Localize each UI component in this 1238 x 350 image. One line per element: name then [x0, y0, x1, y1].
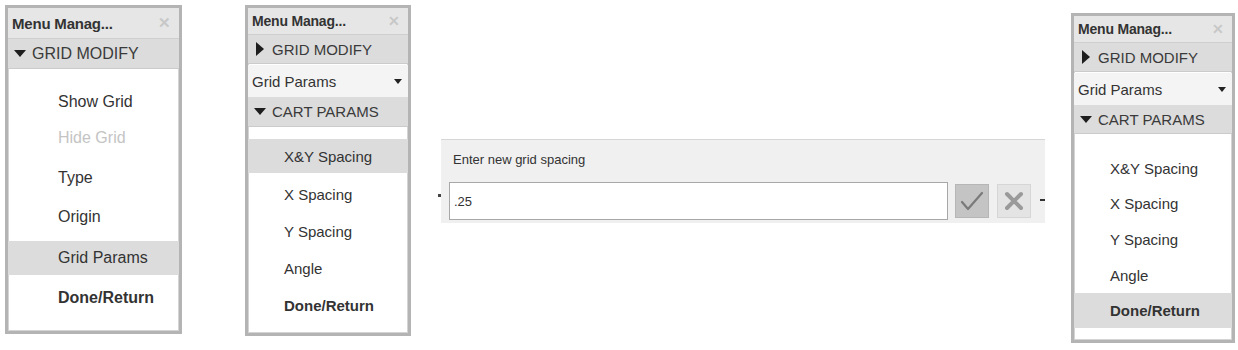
- menu-item-show-grid[interactable]: Show Grid: [8, 86, 179, 118]
- expanded-triangle-icon: [254, 108, 266, 115]
- menu-item-label: Hide Grid: [58, 129, 126, 147]
- section-cart-params[interactable]: CART PARAMS: [1074, 105, 1232, 134]
- section-grid-modify[interactable]: GRID MODIFY: [8, 39, 179, 69]
- dropdown-value: Grid Params: [1078, 81, 1162, 98]
- menu-item-label: X Spacing: [1110, 195, 1178, 212]
- anchor-tick-right: [1040, 199, 1045, 201]
- grid-spacing-input[interactable]: [449, 182, 948, 220]
- menu-item-label: Grid Params: [58, 249, 148, 267]
- section-label: GRID MODIFY: [272, 41, 372, 58]
- menu-item-xy-spacing[interactable]: X&Y Spacing: [248, 139, 408, 173]
- section-grid-modify[interactable]: GRID MODIFY: [1074, 43, 1232, 72]
- menu-item-done-return[interactable]: Done/Return: [1074, 293, 1232, 328]
- panel-title: Menu Manag...: [1078, 21, 1172, 37]
- menu-manager-panel-2: Menu Manag... ✕ GRID MODIFY Grid Params …: [245, 5, 411, 336]
- menu-item-label: Angle: [284, 260, 322, 277]
- dialog-prompt: Enter new grid spacing: [453, 152, 585, 167]
- menu-item-y-spacing[interactable]: Y Spacing: [248, 215, 408, 247]
- section-label: GRID MODIFY: [32, 45, 139, 63]
- close-icon[interactable]: ✕: [388, 13, 400, 29]
- menu-item-origin[interactable]: Origin: [8, 201, 179, 233]
- confirm-button[interactable]: [955, 184, 989, 218]
- menu-item-label: Done/Return: [284, 297, 374, 314]
- menu-item-xy-spacing[interactable]: X&Y Spacing: [1074, 152, 1232, 184]
- menu-item-label: Type: [58, 169, 93, 187]
- cancel-button[interactable]: [997, 184, 1031, 218]
- panel-titlebar: Menu Manag... ✕: [248, 8, 408, 35]
- section-label: GRID MODIFY: [1098, 49, 1198, 66]
- section-label: CART PARAMS: [272, 103, 379, 120]
- close-icon: [1003, 190, 1025, 212]
- expanded-triangle-icon: [14, 50, 26, 57]
- menu-item-angle[interactable]: Angle: [1074, 259, 1232, 291]
- checkmark-icon: [959, 190, 985, 212]
- panel-titlebar: Menu Manag... ✕: [8, 8, 179, 39]
- grid-spacing-dialog: Enter new grid spacing: [441, 139, 1045, 223]
- collapsed-triangle-icon: [1082, 50, 1090, 64]
- dropdown-arrow-icon: [1218, 87, 1226, 92]
- section-cart-params[interactable]: CART PARAMS: [248, 97, 408, 127]
- section-label: CART PARAMS: [1098, 111, 1205, 128]
- menu-item-done-return[interactable]: Done/Return: [8, 281, 179, 315]
- menu-item-label: X Spacing: [284, 186, 352, 203]
- menu-item-label: Done/Return: [1110, 302, 1200, 319]
- menu-item-label: Y Spacing: [284, 223, 352, 240]
- panel-title: Menu Manag...: [12, 15, 113, 32]
- panel-title: Menu Manag...: [252, 13, 346, 29]
- grid-params-dropdown[interactable]: Grid Params: [248, 65, 408, 97]
- close-icon[interactable]: ✕: [1212, 21, 1224, 37]
- menu-item-hide-grid: Hide Grid: [8, 122, 179, 154]
- menu-manager-panel-1: Menu Manag... ✕ GRID MODIFY Show Grid Hi…: [5, 5, 182, 334]
- menu-item-label: Origin: [58, 208, 101, 226]
- grid-params-dropdown[interactable]: Grid Params: [1074, 73, 1232, 105]
- menu-item-y-spacing[interactable]: Y Spacing: [1074, 223, 1232, 255]
- menu-item-label: X&Y Spacing: [1110, 160, 1198, 177]
- dropdown-value: Grid Params: [252, 73, 336, 90]
- expanded-triangle-icon: [1080, 116, 1092, 123]
- menu-item-label: Y Spacing: [1110, 231, 1178, 248]
- close-icon[interactable]: ✕: [158, 14, 171, 32]
- collapsed-triangle-icon: [256, 42, 264, 56]
- menu-item-type[interactable]: Type: [8, 162, 179, 194]
- menu-item-label: Angle: [1110, 267, 1148, 284]
- menu-item-label: X&Y Spacing: [284, 148, 372, 165]
- menu-item-angle[interactable]: Angle: [248, 252, 408, 284]
- menu-item-grid-params[interactable]: Grid Params: [8, 241, 179, 275]
- section-grid-modify[interactable]: GRID MODIFY: [248, 35, 408, 64]
- menu-item-label: Done/Return: [58, 289, 154, 307]
- dropdown-arrow-icon: [394, 79, 402, 84]
- menu-item-done-return[interactable]: Done/Return: [248, 289, 408, 321]
- menu-item-label: Show Grid: [58, 93, 133, 111]
- menu-item-x-spacing[interactable]: X Spacing: [248, 178, 408, 210]
- menu-item-x-spacing[interactable]: X Spacing: [1074, 187, 1232, 219]
- panel-titlebar: Menu Manag... ✕: [1074, 16, 1232, 43]
- menu-manager-panel-3: Menu Manag... ✕ GRID MODIFY Grid Params …: [1071, 13, 1235, 343]
